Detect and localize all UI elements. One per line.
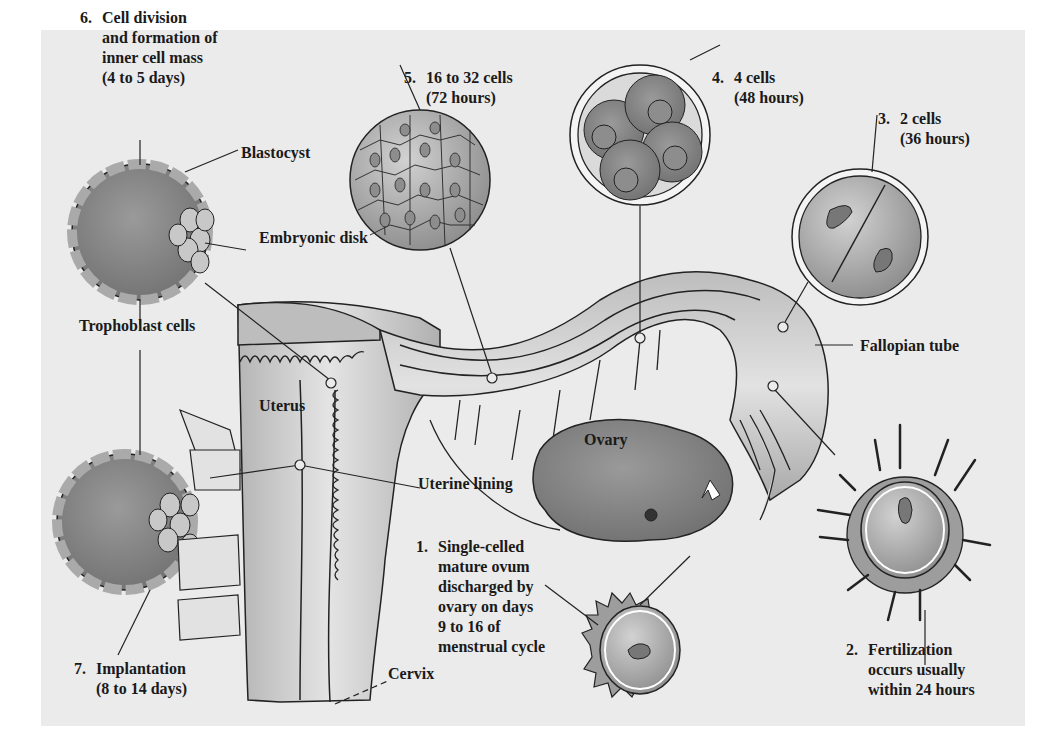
label-line: ovary on days bbox=[416, 597, 545, 617]
stage-6-label: 6.Cell division and formation of inner c… bbox=[80, 8, 218, 88]
label-line: Single-celled bbox=[438, 538, 524, 555]
stage-4-label: 4.4 cells (48 hours) bbox=[712, 68, 804, 108]
label-line: 9 to 16 of bbox=[416, 617, 545, 637]
cervix-label: Cervix bbox=[388, 664, 434, 684]
stage-number: 5. bbox=[404, 68, 426, 88]
label-line: (48 hours) bbox=[712, 88, 804, 108]
label-line: discharged by bbox=[416, 577, 545, 597]
label-line: (8 to 14 days) bbox=[74, 679, 187, 699]
label-line: 4 cells bbox=[734, 69, 775, 86]
stage-1-label: 1.Single-celled mature ovum discharged b… bbox=[416, 537, 545, 657]
label-line: within 24 hours bbox=[846, 680, 975, 700]
two-cell-embryo bbox=[792, 169, 928, 305]
stage-number: 1. bbox=[416, 537, 438, 557]
stage-number: 2. bbox=[846, 640, 868, 660]
label-line: inner cell mass bbox=[80, 48, 218, 68]
uterine-lining-label: Uterine lining bbox=[418, 474, 513, 494]
blastocyst bbox=[72, 164, 214, 300]
stage-number: 3. bbox=[878, 109, 900, 129]
stage-number: 6. bbox=[80, 8, 102, 28]
stage-5-label: 5.16 to 32 cells (72 hours) bbox=[404, 68, 513, 108]
four-cell-embryo bbox=[570, 65, 710, 205]
trophoblast-cells-label: Trophoblast cells bbox=[79, 316, 195, 336]
label-line: 16 to 32 cells bbox=[426, 69, 513, 86]
embryonic-disk-label: Embryonic disk bbox=[259, 228, 368, 248]
label-line: (36 hours) bbox=[878, 129, 970, 149]
stage-number: 7. bbox=[74, 659, 96, 679]
ovum-cell bbox=[582, 593, 680, 697]
morula bbox=[350, 110, 490, 250]
label-line: mature ovum bbox=[416, 557, 545, 577]
ovary-shape bbox=[533, 420, 733, 542]
label-line: Fertilization bbox=[868, 641, 952, 658]
stage-7-label: 7.Implantation (8 to 14 days) bbox=[74, 659, 187, 699]
label-line: 2 cells bbox=[900, 110, 941, 127]
implanting-blastocyst bbox=[57, 410, 240, 640]
label-line: (72 hours) bbox=[404, 88, 513, 108]
label-line: occurs usually bbox=[846, 660, 975, 680]
uterus-label: Uterus bbox=[259, 396, 305, 416]
stage-2-label: 2.Fertilization occurs usually within 24… bbox=[846, 640, 975, 700]
label-line: Cell division bbox=[102, 9, 187, 26]
fallopian-tube-label: Fallopian tube bbox=[860, 336, 959, 356]
fertilized-egg bbox=[818, 425, 990, 620]
blastocyst-label: Blastocyst bbox=[241, 143, 310, 163]
label-line: (4 to 5 days) bbox=[80, 68, 218, 88]
stage-3-label: 3.2 cells (36 hours) bbox=[878, 109, 970, 149]
label-line: menstrual cycle bbox=[416, 637, 545, 657]
stage-number: 4. bbox=[712, 68, 734, 88]
label-line: Implantation bbox=[96, 660, 186, 677]
ovary-label: Ovary bbox=[584, 430, 628, 450]
label-line: and formation of bbox=[80, 28, 218, 48]
